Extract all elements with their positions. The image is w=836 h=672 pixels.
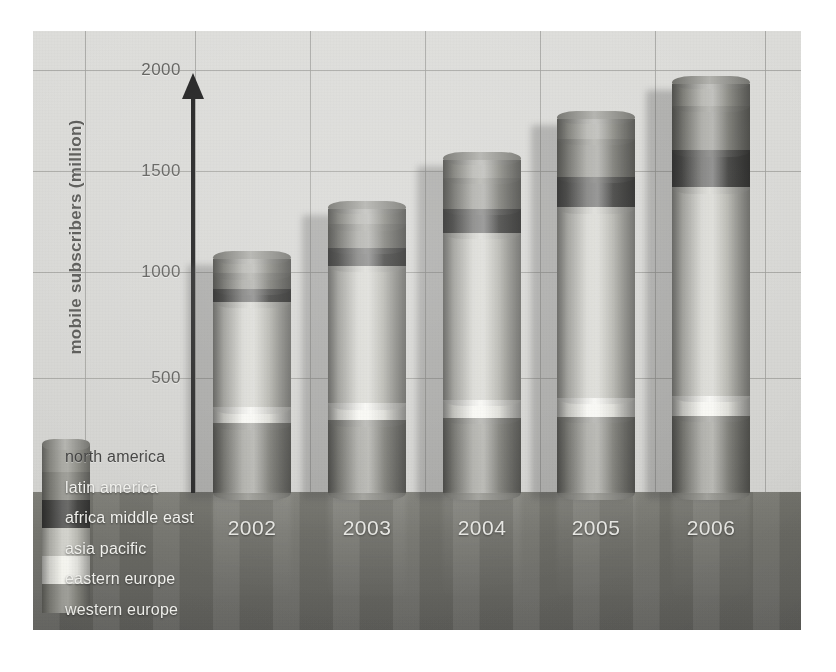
bar-2005[interactable]	[557, 119, 635, 493]
x-axis-label-2006: 2006	[656, 516, 766, 540]
segment-body	[672, 187, 750, 395]
legend-item-asia-pacific[interactable]: asia pacific	[65, 540, 147, 558]
y-tick-label-1000: 1000	[111, 262, 181, 282]
segment-body	[328, 266, 406, 403]
bar-floor-reflection	[557, 493, 635, 603]
y-tick-label-2000: 2000	[111, 60, 181, 80]
legend-item-latin-america[interactable]: latin america	[65, 479, 158, 497]
y-axis-title: mobile subscribers (million)	[66, 112, 86, 362]
y-tick-label-1500: 1500	[111, 161, 181, 181]
bar-2004[interactable]	[443, 160, 521, 493]
segment-top-ellipse	[443, 152, 521, 165]
bar-segment-eastern-europe[interactable]	[672, 396, 750, 416]
segment-body	[443, 233, 521, 400]
segment-top-ellipse	[328, 201, 406, 214]
bar-segment-africa-middle-east[interactable]	[557, 177, 635, 208]
segment-top-ellipse	[557, 111, 635, 124]
bar-segment-latin-america[interactable]	[328, 224, 406, 247]
legend-item-western-europe[interactable]: western europe	[65, 601, 178, 619]
x-axis-label-2005: 2005	[541, 516, 651, 540]
bar-segment-asia-pacific[interactable]	[443, 233, 521, 400]
segment-top-ellipse	[672, 76, 750, 89]
bar-segment-north-america[interactable]	[557, 119, 635, 139]
segment-body	[443, 418, 521, 493]
segment-body	[672, 106, 750, 150]
bar-segment-north-america[interactable]	[328, 209, 406, 225]
bar-2006[interactable]	[672, 84, 750, 493]
bar-segment-eastern-europe[interactable]	[328, 403, 406, 420]
bar-segment-asia-pacific[interactable]	[672, 187, 750, 395]
bar-segment-latin-america[interactable]	[557, 139, 635, 177]
bar-segment-latin-america[interactable]	[443, 178, 521, 209]
bar-segment-africa-middle-east[interactable]	[443, 209, 521, 233]
bar-segment-africa-middle-east[interactable]	[328, 248, 406, 266]
chart-slide: mobile subscribers (million) 2000 1500 1…	[33, 31, 801, 630]
gridline-x-7	[765, 31, 766, 492]
legend-item-eastern-europe[interactable]: eastern europe	[65, 570, 175, 588]
segment-body	[557, 417, 635, 493]
x-axis-label-2004: 2004	[427, 516, 537, 540]
segment-body	[213, 302, 291, 408]
bar-segment-north-america[interactable]	[213, 259, 291, 273]
chart-screenshot: mobile subscribers (million) 2000 1500 1…	[0, 0, 836, 672]
segment-body	[557, 207, 635, 397]
bar-segment-north-america[interactable]	[443, 160, 521, 178]
bar-segment-asia-pacific[interactable]	[213, 302, 291, 408]
y-tick-label-500: 500	[111, 368, 181, 388]
bar-floor-reflection	[443, 493, 521, 603]
bar-segment-western-europe[interactable]	[557, 417, 635, 493]
legend: north americalatin americaafrica middle …	[33, 426, 363, 630]
bar-segment-eastern-europe[interactable]	[213, 407, 291, 423]
bar-segment-eastern-europe[interactable]	[557, 398, 635, 417]
bar-segment-latin-america[interactable]	[672, 106, 750, 150]
bar-segment-latin-america[interactable]	[213, 273, 291, 289]
bar-segment-africa-middle-east[interactable]	[672, 150, 750, 187]
segment-body	[672, 416, 750, 493]
bar-segment-africa-middle-east[interactable]	[213, 289, 291, 302]
bar-segment-asia-pacific[interactable]	[328, 266, 406, 403]
segment-top-ellipse	[213, 251, 291, 264]
bar-segment-asia-pacific[interactable]	[557, 207, 635, 397]
bar-segment-western-europe[interactable]	[672, 416, 750, 493]
bar-segment-north-america[interactable]	[672, 84, 750, 106]
legend-item-africa-middle-east[interactable]: africa middle east	[65, 509, 194, 527]
bar-segment-eastern-europe[interactable]	[443, 400, 521, 418]
bar-segment-western-europe[interactable]	[443, 418, 521, 493]
bar-floor-reflection	[672, 493, 750, 603]
legend-item-north-america[interactable]: north america	[65, 448, 165, 466]
